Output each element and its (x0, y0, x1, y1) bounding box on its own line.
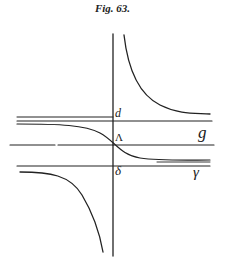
figure-diagram: d Λ δ g γ (0, 0, 225, 258)
label-d: d (115, 106, 122, 120)
lower-left-curve (20, 172, 103, 252)
label-g: g (198, 123, 207, 142)
label-lambda: Λ (115, 131, 123, 143)
label-delta: δ (115, 163, 122, 178)
upper-right-curve (124, 35, 210, 114)
